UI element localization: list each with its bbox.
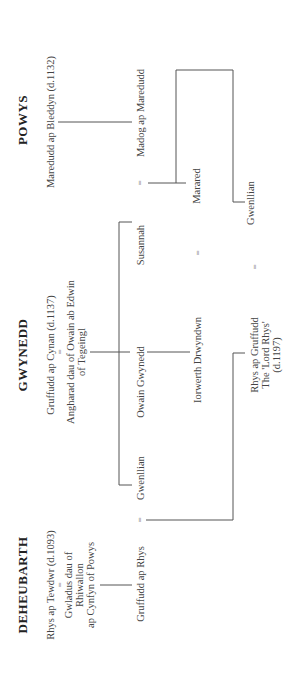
person-gwenllian-powys: Gwenllian [245,181,256,225]
person-gwenllian-gwynedd: Gwenllian [135,456,146,500]
marriage-symbol: = [135,180,146,185]
header-deheubarth: DEHEUBARTH [17,536,28,633]
person-gruffudd-ap-rhys: Gruffudd ap Rhys [135,546,146,622]
person-owain-gwynedd: Owain Gwynedd [135,346,146,417]
marriage-symbol: = [135,517,146,522]
person-madog-ap-maredudd: Madog ap Maredudd [135,69,146,157]
person-rhys-ap-gruffudd: Rhys ap Gruffudd The 'Lord Rhys' (d.1197… [249,317,282,393]
marriage-symbol: = [250,264,261,269]
header-powys: POWYS [17,95,28,145]
person-susannah: Susannah [135,225,146,265]
person-iorwerth-drwyndwn: Iorwerth Drwyndwn [192,317,203,403]
marriage-symbol: = [193,250,204,255]
person-maredudd-ap-bleddyn: Maredudd ap Bleddyn (d.1132) [45,56,56,188]
person-angharad: Angharad dau of Owain ab Edwin of Tegein… [65,280,87,424]
header-gwynedd: GWYNEDD [17,319,28,392]
person-gwladus: Gwladus dau of Rhiwallon ap Cynfyn of Po… [63,542,96,628]
person-gruffudd-ap-cynan: Gruffudd ap Cynan (d.1137) [45,295,56,415]
person-marared: Marared [191,168,202,204]
marriage-symbol: = [55,349,66,354]
